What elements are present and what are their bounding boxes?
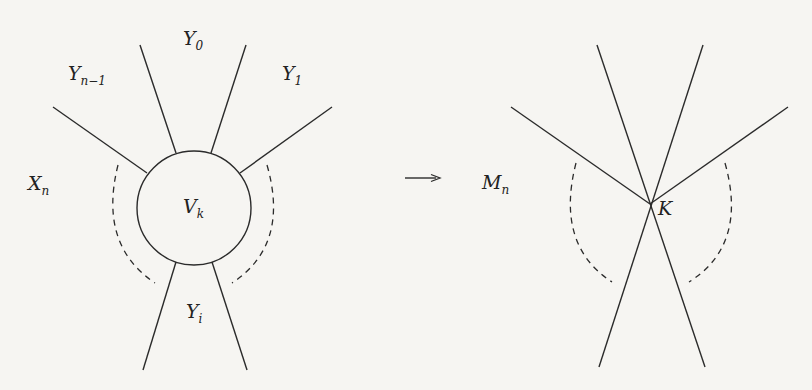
right-diagram: Mn K [481, 45, 788, 367]
edge-right [240, 107, 332, 173]
label-mn: Mn [481, 171, 509, 197]
left-diagram: Y0 Yn−1 Y1 Xn Vk Yi [26, 27, 332, 370]
label-y0: Y0 [183, 27, 204, 53]
edge-bottom-right [212, 262, 247, 370]
label-y1: Y1 [282, 62, 302, 88]
edge-left [511, 107, 650, 204]
dashed-arc-left [570, 163, 612, 282]
edge-left [53, 107, 147, 173]
edge-top-left [140, 45, 176, 153]
edge-top-right [211, 45, 246, 153]
label-k: K [657, 197, 674, 219]
label-yn-minus-1: Yn−1 [68, 62, 106, 88]
transform-arrow [405, 175, 440, 182]
edge-cross-b [599, 45, 703, 367]
edge-right [650, 107, 788, 204]
dashed-arc-right [689, 163, 731, 282]
dashed-arc-right [232, 165, 274, 283]
label-yi: Yi [186, 300, 203, 326]
label-vk: Vk [183, 195, 204, 221]
label-xn: Xn [26, 172, 49, 198]
dashed-arc-left [113, 165, 155, 283]
diagram-canvas: Y0 Yn−1 Y1 Xn Vk Yi Mn K [0, 0, 812, 390]
diagram-svg: Y0 Yn−1 Y1 Xn Vk Yi Mn K [0, 0, 812, 390]
